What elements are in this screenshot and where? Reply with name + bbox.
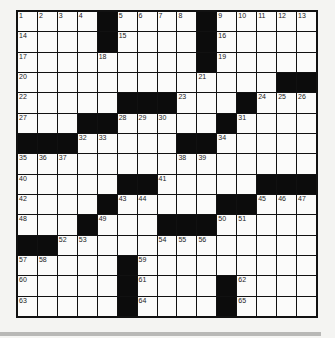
grid-cell[interactable]: 24 — [257, 93, 276, 112]
grid-cell[interactable]: 51 — [237, 215, 256, 234]
grid-cell[interactable] — [237, 134, 256, 153]
grid-cell[interactable]: 34 — [217, 134, 236, 153]
grid-cell[interactable] — [98, 276, 117, 295]
grid-cell[interactable]: 52 — [58, 236, 77, 255]
grid-cell[interactable] — [197, 297, 216, 316]
grid-cell[interactable]: 7 — [158, 12, 177, 31]
grid-cell[interactable]: 21 — [197, 73, 216, 92]
grid-cell[interactable]: 63 — [18, 297, 37, 316]
grid-cell[interactable] — [158, 73, 177, 92]
grid-cell[interactable]: 30 — [158, 114, 177, 133]
grid-cell[interactable] — [78, 53, 97, 72]
grid-cell[interactable] — [118, 215, 137, 234]
grid-cell[interactable] — [297, 215, 316, 234]
grid-cell[interactable] — [257, 73, 276, 92]
grid-cell[interactable]: 17 — [18, 53, 37, 72]
grid-cell[interactable] — [38, 93, 57, 112]
grid-cell[interactable] — [58, 114, 77, 133]
grid-cell[interactable] — [158, 134, 177, 153]
grid-cell[interactable] — [138, 236, 157, 255]
grid-cell[interactable]: 45 — [257, 195, 276, 214]
grid-cell[interactable] — [118, 154, 137, 173]
grid-cell[interactable]: 22 — [18, 93, 37, 112]
grid-cell[interactable] — [58, 276, 77, 295]
grid-cell[interactable] — [58, 215, 77, 234]
grid-cell[interactable] — [277, 256, 296, 275]
grid-cell[interactable] — [297, 236, 316, 255]
grid-cell[interactable]: 20 — [18, 73, 37, 92]
grid-cell[interactable] — [217, 236, 236, 255]
grid-cell[interactable] — [58, 53, 77, 72]
grid-cell[interactable] — [257, 256, 276, 275]
grid-cell[interactable] — [197, 276, 216, 295]
grid-cell[interactable]: 39 — [197, 154, 216, 173]
grid-cell[interactable] — [277, 53, 296, 72]
grid-cell[interactable]: 55 — [177, 236, 196, 255]
grid-cell[interactable]: 5 — [118, 12, 137, 31]
grid-cell[interactable] — [98, 236, 117, 255]
grid-cell[interactable] — [277, 236, 296, 255]
grid-cell[interactable] — [237, 154, 256, 173]
grid-cell[interactable] — [277, 134, 296, 153]
grid-cell[interactable] — [257, 154, 276, 173]
grid-cell[interactable]: 48 — [18, 215, 37, 234]
grid-cell[interactable] — [237, 236, 256, 255]
grid-cell[interactable]: 58 — [38, 256, 57, 275]
grid-cell[interactable] — [277, 154, 296, 173]
grid-cell[interactable] — [297, 297, 316, 316]
grid-cell[interactable] — [38, 32, 57, 51]
grid-cell[interactable] — [78, 175, 97, 194]
grid-cell[interactable] — [237, 32, 256, 51]
grid-cell[interactable]: 64 — [138, 297, 157, 316]
grid-cell[interactable]: 36 — [38, 154, 57, 173]
grid-cell[interactable] — [177, 73, 196, 92]
grid-cell[interactable] — [158, 53, 177, 72]
grid-cell[interactable] — [38, 73, 57, 92]
grid-cell[interactable]: 62 — [237, 276, 256, 295]
grid-cell[interactable] — [197, 256, 216, 275]
grid-cell[interactable] — [158, 297, 177, 316]
grid-cell[interactable] — [177, 53, 196, 72]
grid-cell[interactable] — [297, 154, 316, 173]
grid-cell[interactable] — [38, 114, 57, 133]
grid-cell[interactable] — [277, 215, 296, 234]
grid-cell[interactable]: 14 — [18, 32, 37, 51]
grid-cell[interactable]: 37 — [58, 154, 77, 173]
grid-cell[interactable]: 56 — [197, 236, 216, 255]
grid-cell[interactable] — [277, 32, 296, 51]
grid-cell[interactable] — [78, 32, 97, 51]
grid-cell[interactable]: 60 — [18, 276, 37, 295]
grid-cell[interactable] — [98, 93, 117, 112]
grid-cell[interactable] — [277, 276, 296, 295]
grid-cell[interactable]: 9 — [217, 12, 236, 31]
grid-cell[interactable]: 4 — [78, 12, 97, 31]
grid-cell[interactable] — [177, 256, 196, 275]
grid-cell[interactable]: 12 — [277, 12, 296, 31]
grid-cell[interactable] — [98, 73, 117, 92]
grid-cell[interactable] — [38, 297, 57, 316]
grid-cell[interactable]: 25 — [277, 93, 296, 112]
grid-cell[interactable] — [177, 297, 196, 316]
grid-cell[interactable] — [177, 195, 196, 214]
grid-cell[interactable] — [78, 297, 97, 316]
grid-cell[interactable]: 65 — [237, 297, 256, 316]
grid-cell[interactable]: 19 — [217, 53, 236, 72]
grid-cell[interactable]: 59 — [138, 256, 157, 275]
grid-cell[interactable] — [78, 195, 97, 214]
grid-cell[interactable] — [38, 276, 57, 295]
grid-cell[interactable] — [138, 32, 157, 51]
grid-cell[interactable] — [58, 195, 77, 214]
grid-cell[interactable]: 2 — [38, 12, 57, 31]
grid-cell[interactable] — [277, 114, 296, 133]
grid-cell[interactable]: 44 — [138, 195, 157, 214]
grid-cell[interactable] — [38, 175, 57, 194]
grid-cell[interactable]: 33 — [98, 134, 117, 153]
grid-cell[interactable]: 49 — [98, 215, 117, 234]
grid-cell[interactable]: 10 — [237, 12, 256, 31]
grid-cell[interactable]: 47 — [297, 195, 316, 214]
grid-cell[interactable]: 41 — [158, 175, 177, 194]
grid-cell[interactable] — [98, 297, 117, 316]
grid-cell[interactable]: 50 — [217, 215, 236, 234]
grid-cell[interactable] — [158, 256, 177, 275]
grid-cell[interactable]: 43 — [118, 195, 137, 214]
